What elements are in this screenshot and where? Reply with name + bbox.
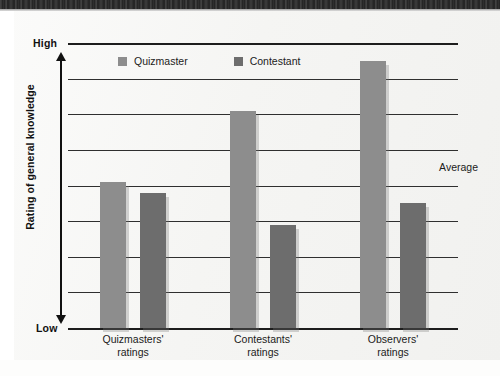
bar-body bbox=[400, 203, 426, 328]
x-axis-category-label: Quizmasters'ratings bbox=[73, 333, 193, 359]
bar bbox=[100, 182, 126, 328]
bar-body bbox=[100, 182, 126, 328]
legend-label: Contestant bbox=[250, 55, 301, 67]
y-axis-double-arrow bbox=[55, 52, 67, 324]
x-axis-category-label: Observers'ratings bbox=[333, 333, 453, 359]
bar bbox=[140, 193, 166, 328]
category-label-line1: Quizmasters' bbox=[73, 333, 193, 346]
page-left-margin bbox=[0, 11, 14, 376]
legend-label: Quizmaster bbox=[134, 55, 188, 67]
category-label-line1: Contestants' bbox=[203, 333, 323, 346]
legend-swatch-icon bbox=[234, 57, 243, 66]
bar bbox=[400, 203, 426, 328]
arrow-stem bbox=[60, 60, 62, 316]
category-label-line2: ratings bbox=[73, 346, 193, 359]
scan-artifact-band bbox=[0, 0, 500, 9]
bar-body bbox=[230, 111, 256, 328]
plot-area bbox=[68, 43, 458, 328]
y-axis-title: Rating of general knowledge bbox=[24, 57, 36, 257]
figure-page: High Low Rating of general knowledge Qui… bbox=[0, 11, 500, 376]
x-axis-category-label: Contestants'ratings bbox=[203, 333, 323, 359]
category-label-line2: ratings bbox=[333, 346, 453, 359]
average-annotation: Average bbox=[439, 161, 478, 173]
bar-body bbox=[140, 193, 166, 328]
figure-screenshot: High Low Rating of general knowledge Qui… bbox=[0, 0, 500, 376]
x-axis-category-labels: Quizmasters'ratingsContestants'ratingsOb… bbox=[68, 333, 458, 373]
category-label-line1: Observers' bbox=[333, 333, 453, 346]
legend: QuizmasterContestant bbox=[118, 55, 300, 67]
arrow-down-icon bbox=[56, 315, 66, 324]
bar-body bbox=[270, 225, 296, 328]
bar-series-container bbox=[68, 43, 458, 328]
category-label-line2: ratings bbox=[203, 346, 323, 359]
legend-swatch-icon bbox=[118, 57, 127, 66]
bar-body bbox=[360, 61, 386, 328]
bar bbox=[270, 225, 296, 328]
y-axis-high-label: High bbox=[33, 37, 57, 49]
legend-item: Contestant bbox=[234, 55, 301, 67]
bar bbox=[230, 111, 256, 328]
legend-item: Quizmaster bbox=[118, 55, 188, 67]
bar bbox=[360, 61, 386, 328]
